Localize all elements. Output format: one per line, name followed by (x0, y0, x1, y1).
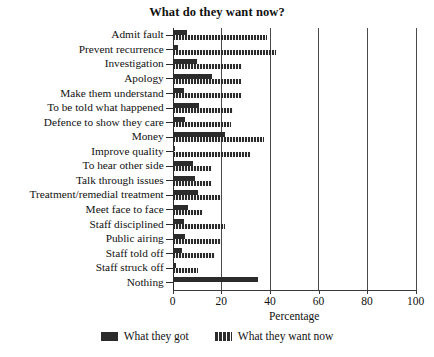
x-axis-tick-0 (173, 290, 174, 294)
category-tickmark (166, 195, 173, 196)
category-tickmark (166, 64, 173, 65)
category-tickmark (166, 239, 173, 240)
bar-what-they-want-now (173, 181, 212, 186)
bar-what-they-got (173, 277, 258, 282)
x-axis-ticklabel-100: 100 (396, 295, 434, 307)
x-axis-ticklabel-0: 0 (153, 295, 193, 307)
gridline-100 (416, 28, 417, 290)
bar-what-they-want-now (173, 268, 199, 273)
hatched-swatch-icon (215, 332, 232, 341)
category-label: To hear other side (0, 160, 164, 171)
category-label: Meet face to face (0, 204, 164, 215)
bar-what-they-want-now (173, 224, 225, 229)
bar-what-they-want-now (173, 122, 231, 127)
category-tickmark (166, 49, 173, 50)
x-axis-tick-100 (416, 290, 417, 294)
category-tickmark (166, 151, 173, 152)
bar-what-they-want-now (173, 166, 212, 171)
legend-item-what-they-got: What they got (101, 330, 189, 342)
category-tickmark (166, 253, 173, 254)
category-label: Apology (0, 73, 164, 84)
x-axis-tick-20 (221, 290, 222, 294)
x-axis-ticklabel-40: 40 (250, 295, 290, 307)
bar-group (173, 217, 416, 232)
bar-group (173, 159, 416, 174)
bar-group (173, 232, 416, 247)
bar-what-they-want-now (173, 35, 268, 40)
bar-what-they-want-now (173, 50, 276, 55)
category-tickmark (166, 224, 173, 225)
x-axis-ticklabel-20: 20 (201, 295, 241, 307)
category-tickmark (166, 78, 173, 79)
category-label: Money (0, 131, 164, 142)
category-label: Public airing (0, 233, 164, 244)
bar-what-they-want-now (173, 137, 264, 142)
x-axis-tick-40 (270, 290, 271, 294)
category-label: To be told what happened (0, 102, 164, 113)
category-label: Improve quality (0, 146, 164, 157)
bar-group (173, 261, 416, 276)
category-tickmark (166, 180, 173, 181)
bar-group (173, 72, 416, 87)
bar-group (173, 43, 416, 58)
bar-what-they-want-now (173, 64, 242, 69)
category-label: Prevent recurrence (0, 44, 164, 55)
bar-group (173, 86, 416, 101)
bar-group (173, 101, 416, 116)
legend-item-what-they-want-now: What they want now (215, 330, 334, 342)
bar-what-they-want-now (173, 239, 222, 244)
chart-legend: What they got What they want now (0, 330, 434, 342)
category-tickmark (166, 93, 173, 94)
bar-group (173, 115, 416, 130)
x-axis-tick-80 (367, 290, 368, 294)
bar-group (173, 28, 416, 43)
x-axis-line (173, 290, 417, 291)
bar-what-they-want-now (173, 79, 241, 84)
category-label: Staff struck off (0, 262, 164, 273)
bar-group (173, 188, 416, 203)
bar-group (173, 174, 416, 189)
plot-area (173, 28, 416, 290)
category-label: Make them understand (0, 88, 164, 99)
x-axis-ticklabel-60: 60 (299, 295, 339, 307)
bar-group (173, 57, 416, 72)
category-tickmark (166, 137, 173, 138)
x-axis-label: Percentage (173, 310, 416, 322)
category-tickmark (166, 209, 173, 210)
category-label: Investigation (0, 58, 164, 69)
solid-swatch-icon (101, 332, 118, 341)
category-tickmark (166, 35, 173, 36)
bar-group (173, 203, 416, 218)
category-tickmark (166, 122, 173, 123)
bar-group (173, 275, 416, 290)
category-label: Nothing (0, 277, 164, 288)
bar-what-they-want-now (173, 152, 251, 157)
category-label: Treatment/remedial treatment (0, 189, 164, 200)
category-tickmark (166, 166, 173, 167)
legend-label: What they got (124, 330, 189, 342)
x-axis-tick-60 (319, 290, 320, 294)
category-tickmark (166, 268, 173, 269)
bar-what-they-want-now (173, 210, 203, 215)
category-label: Admit fault (0, 29, 164, 40)
category-tickmark (166, 282, 173, 283)
category-label: Staff told off (0, 248, 164, 259)
bar-what-they-want-now (173, 108, 234, 113)
bar-group (173, 130, 416, 145)
category-label: Staff disciplined (0, 219, 164, 230)
x-axis-ticklabel-80: 80 (347, 295, 387, 307)
bar-group (173, 246, 416, 261)
legend-label: What they want now (238, 330, 334, 342)
bar-what-they-want-now (173, 195, 222, 200)
bar-what-they-want-now (173, 93, 241, 98)
chart-container: What do they want now? Percentage What t… (0, 0, 434, 357)
chart-title: What do they want now? (0, 5, 434, 20)
bar-what-they-want-now (173, 253, 216, 258)
bar-group (173, 144, 416, 159)
category-tickmark (166, 108, 173, 109)
category-label: Talk through issues (0, 175, 164, 186)
category-label: Defence to show they care (0, 117, 164, 128)
